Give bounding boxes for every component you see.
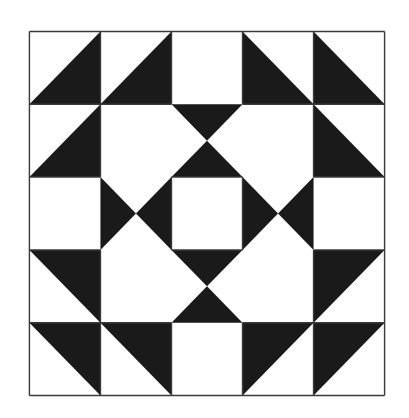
quilt-pattern-svg (28, 30, 386, 397)
quilt-block (28, 30, 386, 397)
